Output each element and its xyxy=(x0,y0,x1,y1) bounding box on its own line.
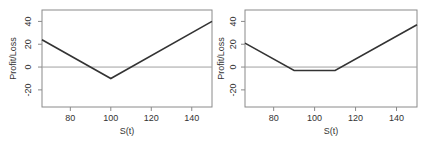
y-axis-title: Profit/Loss xyxy=(8,37,18,80)
y-axis-title: Profit/Loss xyxy=(216,37,226,80)
x-tick-label: 80 xyxy=(65,113,75,123)
x-tick-label: 120 xyxy=(144,113,159,123)
y-tick-label: 40 xyxy=(23,16,33,26)
y-tick-label: 40 xyxy=(228,16,238,26)
payoff-line xyxy=(42,21,212,78)
x-tick-label: 140 xyxy=(184,113,199,123)
x-tick-label: 120 xyxy=(348,113,363,123)
plot-area-frame xyxy=(42,10,212,107)
x-axis-title: S(t) xyxy=(120,126,135,136)
x-tick-label: 140 xyxy=(389,113,404,123)
x-tick-label: 80 xyxy=(269,113,279,123)
x-axis-title: S(t) xyxy=(324,126,339,136)
x-tick-label: 100 xyxy=(103,113,118,123)
y-tick-label: 0 xyxy=(23,65,33,70)
charts-figure: 80100120140-2002040S(t)Profit/Loss 80100… xyxy=(0,0,435,141)
y-tick-label: -20 xyxy=(228,83,238,96)
y-tick-label: -20 xyxy=(23,83,33,96)
chart-panel-left: 80100120140-2002040S(t)Profit/Loss xyxy=(8,10,212,136)
payoff-line xyxy=(245,25,417,71)
plot-area-frame xyxy=(245,10,417,107)
y-tick-label: 20 xyxy=(228,39,238,49)
y-tick-label: 20 xyxy=(23,39,33,49)
chart-panel-right: 80100120140-2002040S(t)Profit/Loss xyxy=(216,10,417,136)
y-tick-label: 0 xyxy=(228,65,238,70)
x-tick-label: 100 xyxy=(307,113,322,123)
